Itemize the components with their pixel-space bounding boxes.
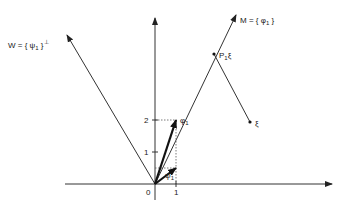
label-xi: ξ xyxy=(255,119,259,128)
label-W: W = { ψ1 }⊥ xyxy=(8,39,49,51)
diagram-canvas: W = { ψ1 }⊥ M = { φ1 } P1ξ ξ φ1 ψ1 0 1 1… xyxy=(0,0,345,204)
label-y-tick-2: 2 xyxy=(144,116,149,125)
label-psi1: ψ1 xyxy=(165,171,175,181)
label-y-tick-1: 1 xyxy=(144,148,149,157)
label-M: M = { φ1 } xyxy=(240,16,274,26)
point-xi xyxy=(248,120,251,123)
label-P1xi: P1ξ xyxy=(219,51,232,61)
projection-segment xyxy=(214,54,250,122)
label-x-tick-1: 1 xyxy=(174,188,179,197)
label-origin: 0 xyxy=(146,188,151,197)
point-P1xi xyxy=(212,52,215,55)
label-phi1: φ1 xyxy=(180,116,189,126)
subspace-W-line xyxy=(67,35,155,184)
subspace-M-line xyxy=(155,15,236,184)
